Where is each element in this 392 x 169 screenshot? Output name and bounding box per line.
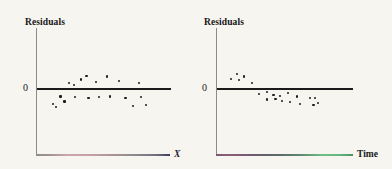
data-point [258, 93, 260, 95]
residual-plot-time: Residuals 0 Time [196, 0, 392, 169]
data-point [80, 78, 82, 80]
data-point [124, 97, 126, 99]
vertical-axis [216, 28, 217, 155]
residual-plot-x: Residuals 0 X [0, 0, 196, 169]
data-point [85, 75, 87, 77]
data-point [287, 92, 289, 94]
horizontal-axis [36, 154, 170, 156]
y-axis-label: Residuals [25, 18, 65, 28]
data-point [109, 95, 111, 97]
data-point [74, 96, 76, 98]
data-point [55, 106, 57, 108]
data-point [73, 84, 75, 86]
data-point [289, 101, 291, 103]
data-point [299, 103, 301, 105]
data-point [236, 73, 238, 75]
data-point [98, 96, 100, 98]
x-axis-label: Time [357, 150, 378, 160]
data-point [281, 100, 283, 102]
data-point [230, 78, 232, 80]
zero-reference-line [217, 88, 353, 90]
data-point [132, 105, 134, 107]
zero-reference-line [37, 88, 171, 90]
data-point [140, 96, 142, 98]
data-point [312, 104, 314, 106]
data-point [266, 91, 268, 93]
data-point [317, 102, 319, 104]
data-point [118, 80, 120, 82]
data-point [251, 82, 253, 84]
data-point [296, 95, 298, 97]
data-point [314, 97, 316, 99]
data-point [272, 94, 274, 96]
data-point [238, 79, 240, 81]
data-point [63, 100, 65, 102]
zero-tick-label: 0 [23, 83, 28, 93]
data-point [274, 98, 276, 100]
data-point [95, 81, 97, 83]
figure-canvas: Residuals 0 X Residuals 0 Time [0, 0, 392, 169]
zero-tick-label: 0 [202, 83, 207, 93]
data-point [68, 82, 70, 84]
data-point [138, 82, 140, 84]
data-point [52, 103, 54, 105]
vertical-axis [36, 28, 37, 155]
data-point [87, 97, 89, 99]
x-axis-label: X [174, 150, 180, 160]
data-point [59, 95, 61, 97]
data-point [309, 97, 311, 99]
data-point [266, 98, 268, 100]
data-point [243, 75, 245, 77]
horizontal-axis [216, 154, 353, 156]
data-point [279, 95, 281, 97]
data-point [145, 104, 147, 106]
data-point [106, 75, 108, 77]
y-axis-label: Residuals [204, 18, 244, 28]
